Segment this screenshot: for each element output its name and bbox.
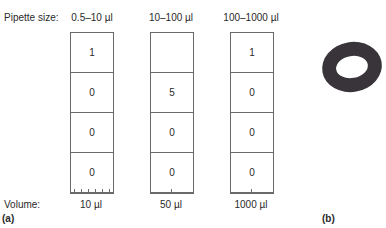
- volume-1: 10 µl: [61, 199, 121, 210]
- digit-cell: 0: [231, 113, 273, 153]
- pipette-display-1: 1 0 0 0: [70, 32, 114, 194]
- column-head-1: 0.5–10 µl: [52, 12, 132, 23]
- digit-cell: 0: [231, 153, 273, 193]
- digit-cell: 0: [71, 153, 113, 193]
- column-head-2: 10–100 µl: [131, 12, 211, 23]
- panel-label-a: (a): [2, 213, 14, 224]
- volume-3: 1000 µl: [221, 199, 281, 210]
- digit-cell: 0: [71, 73, 113, 113]
- digit-cell: 1: [71, 33, 113, 73]
- digit-cell: 5: [151, 73, 193, 113]
- volume-2: 50 µl: [141, 199, 201, 210]
- digit-cell: 1: [231, 33, 273, 73]
- panel-label-b: (b): [322, 213, 335, 224]
- digit-cell: 0: [231, 73, 273, 113]
- digit-cell: 0: [151, 113, 193, 153]
- digit-cell: [151, 33, 193, 73]
- column-head-3: 100–1000 µl: [211, 12, 291, 23]
- pipette-size-label: Pipette size:: [4, 12, 58, 23]
- digit-cell: 0: [71, 113, 113, 153]
- volume-label: Volume:: [4, 199, 40, 210]
- pipette-display-2: 5 0 0: [150, 32, 194, 194]
- pipette-ring-image: [318, 37, 386, 97]
- digit-cell: 0: [151, 153, 193, 193]
- pipette-display-3: 1 0 0 0: [230, 32, 274, 194]
